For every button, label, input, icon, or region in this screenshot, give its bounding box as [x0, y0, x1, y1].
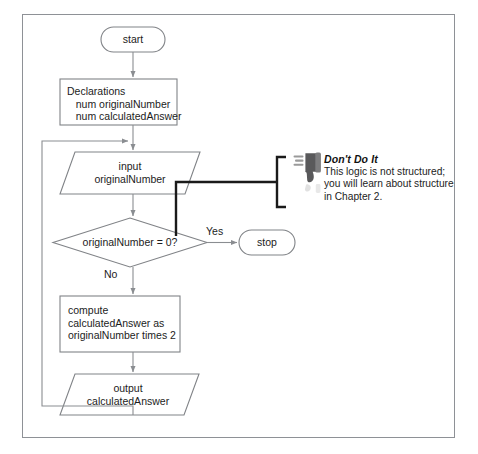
- start-label: start: [101, 33, 165, 46]
- dont-do-it-callout: Don't Do It This logic is not structured…: [277, 152, 457, 214]
- declarations-label: Declarations num originalNumber num calc…: [67, 85, 177, 123]
- input-label: input originalNumber: [75, 160, 185, 185]
- compute-label: compute calculatedAnswer as originalNumb…: [68, 304, 180, 342]
- callout-heading: Don't Do It: [324, 153, 378, 165]
- branch-label-no: No: [104, 268, 117, 280]
- decision-label: originalNumber = 0?: [60, 236, 200, 249]
- callout-body: This logic is not structured; you will l…: [324, 166, 459, 203]
- output-label: output calculatedAnswer: [72, 382, 184, 407]
- figure-frame: [22, 14, 455, 438]
- stop-label: stop: [239, 236, 295, 249]
- branch-label-yes: Yes: [206, 225, 223, 237]
- flowchart-figure: start Declarations num originalNumber nu…: [0, 0, 478, 454]
- thumbs-down-icon: [293, 151, 323, 199]
